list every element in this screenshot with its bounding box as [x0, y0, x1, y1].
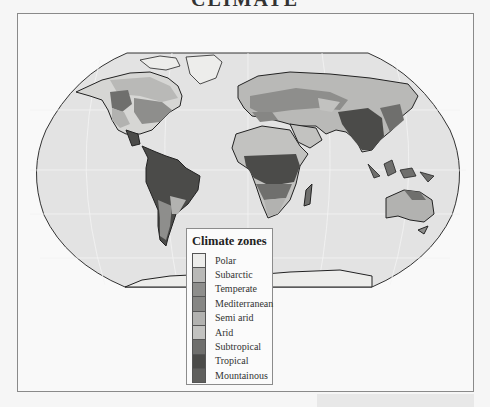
legend-item-arid: Arid [192, 325, 273, 339]
legend-item-semi-arid: Semi arid [192, 311, 273, 325]
swatch-temperate [192, 282, 206, 296]
legend: Climate zones Polar Subarctic Temperate … [186, 228, 273, 385]
legend-label: Subarctic [215, 269, 253, 280]
legend-title: Climate zones [192, 234, 267, 249]
legend-items: Polar Subarctic Temperate Mediterranean … [192, 253, 273, 383]
swatch-semi-arid [192, 311, 206, 325]
swatch-subarctic [192, 267, 206, 281]
swatch-polar [192, 253, 206, 267]
legend-label: Subtropical [215, 341, 261, 352]
legend-label: Semi arid [215, 312, 254, 323]
legend-label: Arid [215, 327, 233, 338]
swatch-mountainous [192, 368, 206, 382]
swatch-subtropical [192, 339, 206, 353]
legend-label: Mediterranean [215, 298, 273, 309]
swatch-arid [192, 325, 206, 339]
legend-label: Temperate [215, 283, 257, 294]
legend-item-subarctic: Subarctic [192, 267, 273, 281]
legend-item-tropical: Tropical [192, 354, 273, 368]
legend-label: Tropical [215, 355, 249, 366]
swatch-mediterranean [192, 296, 206, 310]
legend-item-mediterranean: Mediterranean [192, 296, 273, 310]
legend-item-temperate: Temperate [192, 282, 273, 296]
swatch-tropical [192, 354, 206, 368]
legend-label: Mountainous [215, 370, 268, 381]
legend-item-subtropical: Subtropical [192, 339, 273, 353]
legend-item-polar: Polar [192, 253, 273, 267]
legend-item-mountainous: Mountainous [192, 368, 273, 382]
legend-label: Polar [215, 255, 236, 266]
